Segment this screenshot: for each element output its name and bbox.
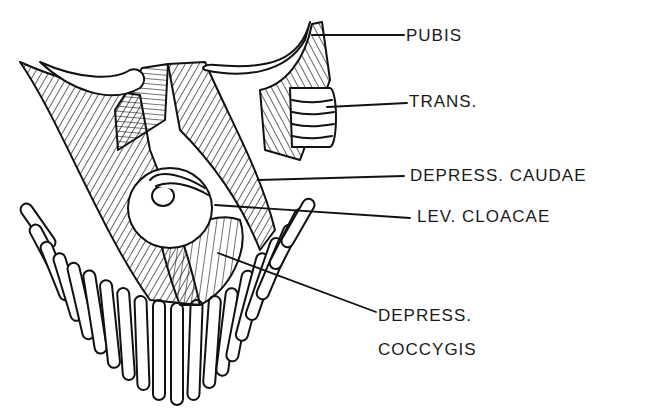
label-pubis: PUBIS xyxy=(406,26,462,46)
label-lev-cloacae: LEV. CLOACAE xyxy=(417,207,550,227)
label-depress-coccygis-line1: DEPRESS. xyxy=(378,306,472,326)
diagram-canvas: PUBIS TRANS. DEPRESS. CAUDAE LEV. CLOACA… xyxy=(0,0,649,416)
anatomy-illustration xyxy=(0,0,649,416)
label-trans: TRANS. xyxy=(409,92,477,112)
cloaca xyxy=(128,168,212,248)
label-depress-coccygis-line2: COCCYGIS xyxy=(378,340,477,360)
label-depress-caudae: DEPRESS. CAUDAE xyxy=(410,166,587,186)
trans-muscle xyxy=(290,88,336,147)
